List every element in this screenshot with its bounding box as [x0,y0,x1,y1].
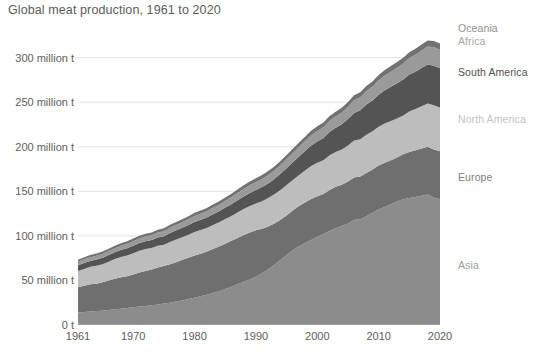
plot-area [78,22,440,325]
chart-container: Global meat production, 1961 to 2020 0 t… [0,0,540,357]
x-tick-label: 1980 [182,330,206,342]
x-tick-label: 1990 [244,330,268,342]
stacked-area-plot [78,22,440,325]
x-tick-label: 2000 [305,330,329,342]
legend-label-europe[interactable]: Europe [458,171,492,183]
legend-label-oceania[interactable]: Oceania [458,22,498,34]
x-tick-label: 2010 [366,330,390,342]
x-tick-label: 2020 [428,330,452,342]
x-tick-label: 1961 [66,330,90,342]
legend-label-africa[interactable]: Africa [458,35,485,47]
legend-label-asia[interactable]: Asia [458,259,479,271]
legend-label-south-america[interactable]: South America [458,66,528,78]
x-tick-label: 1970 [121,330,145,342]
legend-label-north-america[interactable]: North America [458,113,526,125]
